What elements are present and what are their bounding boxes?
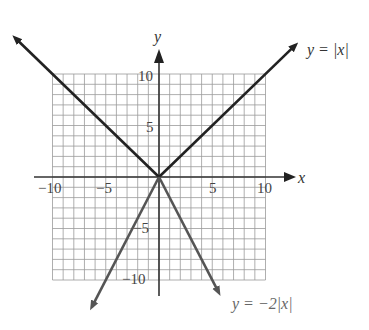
x-tick-label: 5	[209, 180, 217, 196]
y-tick-label: 10	[138, 68, 153, 84]
series-label-text: y = |x|	[305, 41, 349, 59]
x-tick-label: −5	[96, 180, 112, 196]
y-tick-label: −10	[122, 271, 145, 287]
series-label-text: y = −2|x|	[230, 295, 293, 313]
series-line	[92, 177, 159, 307]
y-axis-label: y	[152, 28, 162, 46]
absolute-value-graph: x y −10 −5 5 10 10 5 −5 −10 y = |x| y = …	[0, 0, 369, 330]
x-tick-label: −10	[38, 180, 61, 196]
series-label-neg2-abs-x: y = −2|x|	[230, 295, 293, 313]
x-tick-label: 10	[257, 180, 272, 196]
series-line	[159, 45, 295, 177]
series-lines	[15, 38, 295, 307]
x-axis-arrow-icon	[284, 172, 296, 182]
y-tick-label: 5	[146, 119, 154, 135]
x-axis-label: x	[297, 169, 305, 186]
y-axis-arrow-icon	[154, 49, 164, 63]
series-label-abs-x: y = |x|	[305, 41, 349, 59]
y-tick-label: −5	[133, 220, 149, 236]
